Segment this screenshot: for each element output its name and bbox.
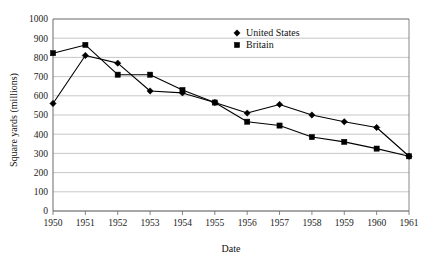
legend-marker-square xyxy=(234,42,239,47)
x-axis-tick-label: 1950 xyxy=(44,218,63,228)
y-axis-tick-label: 300 xyxy=(34,149,49,159)
x-axis-tick-label: 1956 xyxy=(238,218,257,228)
y-axis-tick-label: 200 xyxy=(34,168,49,178)
x-axis-tick-label: 1957 xyxy=(270,218,289,228)
y-axis-tick-label: 1000 xyxy=(29,14,48,24)
y-axis-tick-label: 400 xyxy=(34,130,49,140)
x-axis-tick-label: 1952 xyxy=(108,218,127,228)
x-axis-title: Date xyxy=(222,243,241,254)
data-point-marker xyxy=(147,72,152,77)
y-axis-tick-label: 100 xyxy=(34,187,49,197)
x-axis-tick-label: 1959 xyxy=(335,218,354,228)
y-axis-tick-label: 500 xyxy=(34,110,49,120)
data-point-marker xyxy=(406,154,411,159)
legend-label: United States xyxy=(246,27,300,38)
x-axis-tick-label: 1960 xyxy=(367,218,386,228)
y-axis-tick-label: 0 xyxy=(43,206,48,216)
data-point-marker xyxy=(277,123,282,128)
y-axis-tick-label: 900 xyxy=(34,34,49,44)
x-axis-tick-label: 1953 xyxy=(141,218,160,228)
data-point-marker xyxy=(374,146,379,151)
x-axis-tick-label: 1951 xyxy=(76,218,95,228)
data-point-marker xyxy=(180,87,185,92)
y-axis-tick-label: 800 xyxy=(34,53,49,63)
data-point-marker xyxy=(342,139,347,144)
data-point-marker xyxy=(245,119,250,124)
x-axis-tick-label: 1955 xyxy=(205,218,224,228)
data-point-marker xyxy=(50,51,55,56)
line-chart: 01002003004005006007008009001000 1950195… xyxy=(0,0,430,260)
x-axis-tick-label: 1954 xyxy=(173,218,192,228)
data-point-marker xyxy=(309,134,314,139)
y-axis-tick-label: 700 xyxy=(34,72,49,82)
y-axis-title: Square yards (millions) xyxy=(8,73,20,167)
data-point-marker xyxy=(115,72,120,77)
data-point-marker xyxy=(212,100,217,105)
legend-label: Britain xyxy=(246,39,274,50)
x-axis-tick-label: 1961 xyxy=(400,218,419,228)
x-axis-tick-label: 1958 xyxy=(302,218,321,228)
chart-container: 01002003004005006007008009001000 1950195… xyxy=(0,0,430,260)
y-axis-tick-label: 600 xyxy=(34,91,49,101)
data-point-marker xyxy=(83,42,88,47)
